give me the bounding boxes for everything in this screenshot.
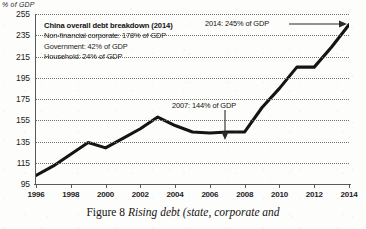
figure-caption: Figure 8 Rising debt (state, corporate a…: [0, 206, 366, 218]
figure-caption-lead: Figure 8: [86, 206, 128, 218]
figure-caption-text: Rising debt (state, corporate and: [128, 206, 280, 218]
arrow-2014-head: [339, 21, 347, 28]
arrow-2007-head: [222, 132, 229, 140]
annotation-arrows: [0, 0, 366, 229]
figure-container: % of GDP 95115135155175195215235255 1996…: [0, 0, 366, 229]
